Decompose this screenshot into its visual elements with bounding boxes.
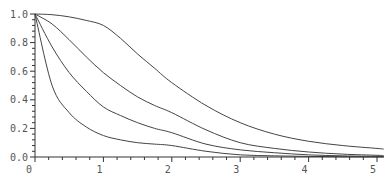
curves — [35, 14, 384, 157]
x-tick-label: 3 — [233, 164, 239, 175]
y-tick-label: 0.2 — [10, 123, 28, 134]
y-tick-label: 1.0 — [10, 9, 28, 20]
curve-2 — [35, 14, 384, 156]
tick-labels: 0.00.20.40.60.81.0012345 — [10, 9, 376, 176]
x-tick-label: 1 — [96, 164, 102, 175]
y-tick-label: 0.4 — [10, 94, 28, 105]
line-chart: 0.00.20.40.60.81.0012345 — [0, 0, 390, 180]
y-tick-label: 0.8 — [10, 37, 28, 48]
x-tick-label: 0 — [26, 164, 32, 175]
y-tick-label: 0.6 — [10, 66, 28, 77]
curve-4 — [35, 14, 384, 157]
x-tick-label: 5 — [370, 164, 376, 175]
x-tick-label: 2 — [165, 164, 171, 175]
y-tick-label: 0.0 — [10, 152, 28, 163]
x-tick-label: 4 — [302, 164, 308, 175]
curve-3 — [35, 14, 384, 157]
curve-1 — [35, 14, 384, 149]
